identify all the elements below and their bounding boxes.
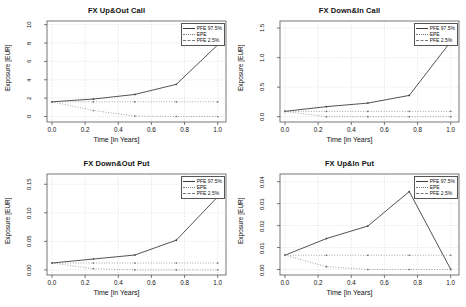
data-point [93,110,95,112]
x-tick-label: 0.4 [106,279,130,286]
data-point [217,262,219,264]
data-point [175,269,177,271]
data-point [134,115,136,117]
legend-line-swatch-icon [183,26,195,30]
legend-item: PFE 2.5% [416,190,455,196]
x-tick-label: 0.4 [339,126,363,133]
data-point [450,116,452,118]
x-tick-label: 0.6 [139,126,163,133]
x-tick-label: 0.2 [73,126,97,133]
data-point [284,111,286,113]
y-tick-label: 0.01 [255,239,269,257]
data-point [217,101,219,103]
data-point [51,262,53,264]
data-point [93,258,95,260]
series-line [285,255,451,269]
y-tick-label: 0.00 [255,261,269,279]
y-tick-label: 8 [22,34,36,52]
series-line [52,45,218,102]
series-line [285,42,451,112]
data-point [408,116,410,118]
y-tick-label: 1.5 [255,19,269,37]
data-point [284,254,286,256]
figure-panel-grid: FX Up&Out CallExposure [EUR]Time [in Yea… [0,0,466,307]
x-tick-label: 1.0 [206,126,230,133]
data-point [134,101,136,103]
chart-legend: PFE 97.5%EPEPFE 2.5% [414,23,458,46]
x-tick-label: 0.2 [306,126,330,133]
data-point [408,111,410,113]
data-point [93,101,95,103]
chart-panel: FX Up&In PutExposure [EUR]Time [in Years… [233,153,466,306]
x-tick-label: 1.0 [439,126,463,133]
y-tick-label: 0.0 [255,108,269,126]
data-point [93,268,95,270]
x-tick-label: 0.6 [139,279,163,286]
data-point [217,116,219,118]
chart-panel: FX Down&In CallExposure [EUR]Time [in Ye… [233,0,466,153]
data-point [367,269,369,271]
data-point [408,254,410,256]
legend-line-swatch-icon [183,185,195,189]
y-tick-label: 0.5 [255,78,269,96]
y-tick-label: 1.0 [255,49,269,67]
chart-panel: FX Up&Out CallExposure [EUR]Time [in Yea… [0,0,233,153]
data-point [408,269,410,271]
legend-label: PFE 2.5% [197,190,220,196]
data-point [326,254,328,256]
data-point [326,111,328,113]
data-point [93,98,95,100]
data-point [450,254,452,256]
data-point [134,94,136,96]
x-tick-label: 0.0 [273,279,297,286]
data-point [367,254,369,256]
data-point [51,101,53,103]
legend-line-swatch-icon [416,26,428,30]
series-line [52,197,218,263]
data-point [175,101,177,103]
x-tick-label: 1.0 [439,279,463,286]
x-tick-label: 0.8 [173,126,197,133]
y-tick-label: 0.15 [22,175,36,193]
data-point [326,106,328,108]
data-point [175,239,177,241]
x-tick-label: 0.0 [40,279,64,286]
legend-line-swatch-icon [416,39,428,43]
data-point [450,111,452,113]
x-tick-label: 0.8 [406,126,430,133]
x-tick-label: 1.0 [206,279,230,286]
data-point [134,254,136,256]
data-point [175,116,177,118]
data-point [217,269,219,271]
data-point [134,262,136,264]
y-tick-label: 10 [22,16,36,34]
data-point [367,102,369,104]
legend-line-swatch-icon [183,39,195,43]
y-tick-label: 0 [22,107,36,125]
y-tick-label: 0.00 [22,261,36,279]
legend-line-swatch-icon [416,192,428,196]
data-point [367,111,369,113]
x-tick-label: 0.4 [339,279,363,286]
legend-label: PFE 2.5% [197,37,220,43]
legend-label: PFE 2.5% [430,37,453,43]
data-point [326,266,328,268]
x-tick-label: 0.8 [406,279,430,286]
y-tick-label: 0.04 [255,173,269,191]
y-tick-label: 0.10 [22,204,36,222]
data-point [326,116,328,118]
legend-line-swatch-icon [416,185,428,189]
x-tick-label: 0.0 [273,126,297,133]
x-tick-label: 0.2 [73,279,97,286]
data-point [408,191,410,193]
x-tick-label: 0.6 [372,279,396,286]
data-point [367,225,369,227]
y-tick-label: 6 [22,52,36,70]
chart-legend: PFE 97.5%EPEPFE 2.5% [414,176,458,199]
chart-panel: FX Down&Out PutExposure [EUR]Time [in Ye… [0,153,233,306]
chart-legend: PFE 97.5%EPEPFE 2.5% [181,23,225,46]
legend-label: PFE 2.5% [430,190,453,196]
data-point [134,269,136,271]
series-line [52,263,218,270]
x-tick-label: 0.0 [40,126,64,133]
